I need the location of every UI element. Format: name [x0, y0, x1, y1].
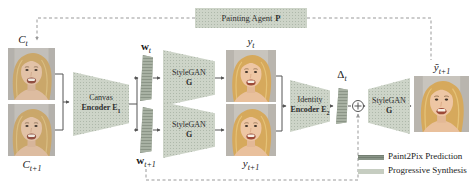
- canvas-encoder-line2: Encoder E1: [81, 103, 120, 115]
- legend-swatch-prediction: [358, 155, 384, 160]
- stylegan-bottom-node: StyleGAN G: [163, 102, 215, 158]
- output-yt1-image: [226, 104, 276, 156]
- stylegan-bottom-line1: StyleGAN: [172, 120, 206, 130]
- stylegan-top-line1: StyleGAN: [172, 68, 206, 78]
- stylegan-final-line2: G: [386, 106, 392, 116]
- painting-agent-box: Painting Agent P: [195, 8, 307, 28]
- legend-label-prediction: Paint2Pix Prediction: [388, 150, 462, 162]
- painting-agent-symbol: P: [275, 13, 280, 24]
- identity-encoder-line2: Encoder E2: [290, 105, 329, 117]
- feedback-line-output-to-agent: [307, 18, 431, 60]
- latent-wt-bar: [140, 55, 153, 101]
- label-ct1: Ct+1: [14, 158, 50, 173]
- canvas-encoder-node: Canvas Encoder E1: [73, 72, 129, 136]
- label-wt: wt: [132, 40, 160, 55]
- stylegan-final-line1: StyleGAN: [372, 96, 406, 106]
- encoder-split-line: [129, 78, 137, 130]
- label-ct: Ct: [12, 33, 34, 48]
- painting-agent-label: Painting Agent: [222, 13, 273, 24]
- stylegan-bottom-line2: G: [186, 130, 192, 140]
- output-merge-bracket: [276, 76, 282, 131]
- sum-junction-icon: [353, 101, 364, 112]
- canvas-merge-bracket: [55, 74, 63, 130]
- label-wt1: wt+1: [128, 154, 164, 169]
- canvas-ct1-image: [8, 104, 55, 156]
- identity-encoder-node: Identity Encoder E2: [290, 80, 330, 132]
- paint2pix-architecture-diagram: Painting Agent P Ct Ct+1 Canvas Encoder …: [0, 0, 471, 191]
- legend-swatch-synthesis: [358, 169, 384, 174]
- output-yt-image: [226, 50, 276, 102]
- identity-encoder-line1: Identity: [298, 95, 323, 105]
- stylegan-top-node: StyleGAN G: [163, 50, 215, 106]
- canvas-ct-image: [8, 48, 55, 100]
- canvas-encoder-line1: Canvas: [89, 93, 113, 103]
- label-delta: Δt: [330, 68, 354, 83]
- stylegan-top-line2: G: [186, 78, 192, 88]
- label-yt1: yt+1: [233, 157, 269, 172]
- latent-wt1-bar: [140, 107, 153, 153]
- feedback-line-agent-to-canvas: [37, 18, 195, 40]
- legend-label-synthesis: Progressive Synthesis: [388, 164, 467, 176]
- stylegan-final-node: StyleGAN G: [368, 78, 410, 134]
- output-yhat-image: [414, 76, 469, 132]
- label-yhat: ỹt+1: [424, 61, 460, 76]
- delta-bar: [336, 88, 348, 124]
- label-yt: yt: [240, 35, 262, 50]
